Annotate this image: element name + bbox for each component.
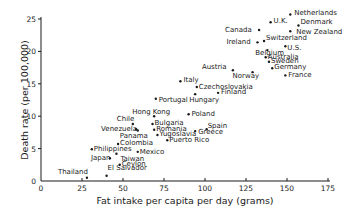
point-marker: [258, 29, 260, 31]
point-marker: [115, 153, 117, 155]
point-marker: [196, 86, 198, 88]
point-label: Philippines: [94, 145, 132, 153]
data-point: Hungary: [189, 93, 219, 104]
point-label: France: [288, 71, 311, 79]
data-point: Japan: [90, 154, 111, 162]
point-marker: [284, 74, 286, 76]
point-marker: [269, 21, 271, 23]
point-marker: [137, 151, 139, 153]
point-label: Finland: [221, 88, 246, 96]
data-point: Norway: [233, 71, 260, 80]
point-label: Poland: [192, 110, 215, 118]
point-marker: [264, 56, 266, 58]
point-label: Greece: [198, 128, 223, 136]
data-point: Finland: [217, 88, 246, 96]
point-label: Netherlands: [294, 9, 337, 17]
point-marker: [297, 24, 299, 26]
point-marker: [166, 139, 168, 141]
point-label: Norway: [233, 72, 260, 80]
data-point: U.K.: [269, 17, 287, 25]
point-label: El Salvador: [108, 164, 147, 172]
point-marker: [194, 93, 196, 95]
point-label: Ireland: [226, 38, 250, 46]
point-marker: [271, 67, 273, 69]
x-tick-label: 175: [321, 184, 336, 193]
x-tick-label: 75: [159, 184, 169, 193]
data-point: Puerto Rico: [166, 136, 209, 144]
data-point: Thailand: [57, 168, 88, 179]
x-tick-label: 50: [118, 184, 128, 193]
point-label: Denmark: [300, 18, 333, 26]
point-label: Austria: [202, 63, 227, 71]
point-marker: [86, 177, 88, 179]
data-point: Hong Kong: [132, 108, 170, 117]
data-point: Netherlands: [289, 9, 337, 17]
y-axis-title: Death rate (per 100,000): [19, 40, 30, 160]
x-tick-label: 0: [39, 184, 44, 193]
data-point: Philippines: [91, 145, 132, 153]
point-marker: [91, 148, 93, 150]
point-marker: [137, 129, 139, 131]
data-point: Greece: [194, 128, 223, 136]
point-marker: [289, 30, 291, 32]
data-point: Chile: [117, 115, 135, 125]
point-label: Switzerland: [266, 34, 307, 42]
x-tick-label: 100: [198, 184, 213, 193]
data-point: Switzerland: [263, 34, 307, 42]
data-point: El Salvador: [105, 164, 147, 177]
point-marker: [105, 175, 107, 177]
point-marker: [155, 98, 157, 100]
data-point: Ireland: [226, 38, 258, 46]
data-point: Austria: [202, 63, 234, 71]
data-points: NetherlandsU.K.DenmarkCanadaNew ZealandI…: [57, 9, 342, 178]
point-marker: [232, 69, 234, 71]
point-marker: [256, 41, 258, 43]
point-label: Germany: [274, 63, 306, 71]
data-point: Portugal: [155, 96, 188, 104]
y-tick-label: 0: [31, 177, 36, 186]
point-marker: [217, 92, 219, 94]
point-marker: [151, 123, 153, 125]
scatter-chart: 0255075100125150175 0510152025 Netherlan…: [0, 0, 362, 212]
x-tick-label: 25: [77, 184, 87, 193]
point-marker: [289, 13, 291, 15]
x-axis-ticks: 0255075100125150175: [39, 178, 336, 193]
point-label: Italy: [183, 76, 198, 84]
x-axis-title: Fat intake per capita per day (grams): [96, 195, 273, 206]
point-marker: [156, 134, 158, 136]
data-point: Canada: [225, 26, 260, 34]
point-label: Chile: [117, 115, 135, 123]
y-tick-label: 5: [31, 145, 36, 154]
point-label: Puerto Rico: [169, 136, 209, 144]
x-tick-label: 125: [239, 184, 254, 193]
data-point: France: [284, 71, 311, 79]
point-label: Hungary: [189, 96, 219, 104]
data-point: U.S.: [284, 44, 301, 52]
data-point: Poland: [187, 110, 215, 118]
data-point: Denmark: [297, 18, 333, 26]
point-label: Thailand: [57, 168, 88, 176]
point-label: Hong Kong: [132, 108, 170, 116]
x-tick-label: 150: [280, 184, 295, 193]
point-label: Japan: [90, 154, 111, 162]
point-marker: [268, 61, 270, 63]
y-tick-label: 25: [26, 15, 36, 24]
point-marker: [284, 45, 286, 47]
point-marker: [187, 113, 189, 115]
data-point: Germany: [271, 63, 306, 71]
point-marker: [263, 40, 265, 42]
point-marker: [179, 80, 181, 82]
point-label: Portugal: [159, 96, 188, 104]
point-label: U.S.: [287, 44, 301, 52]
point-marker: [153, 129, 155, 131]
point-label: U.K.: [274, 17, 288, 25]
data-point: Italy: [179, 76, 198, 84]
point-label: Canada: [225, 26, 252, 34]
